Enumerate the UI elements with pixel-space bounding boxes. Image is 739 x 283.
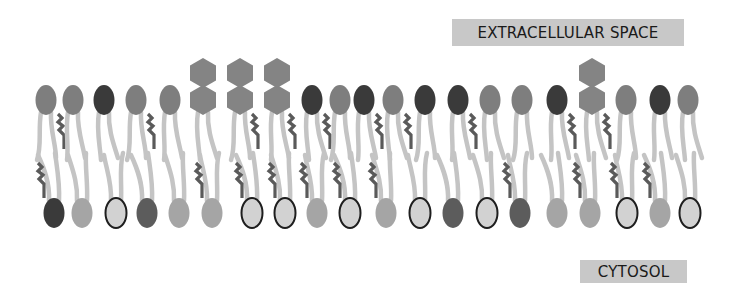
outer-leaflet xyxy=(36,58,703,160)
phospholipid-outer xyxy=(94,85,119,160)
lipid-head-icon xyxy=(477,198,498,228)
phospholipid-outer xyxy=(63,85,86,160)
sugar-hexagon-icon xyxy=(190,58,216,88)
sugar-hexagon-icon xyxy=(227,58,253,88)
phospholipid-outer xyxy=(330,85,351,160)
lipid-head-icon xyxy=(678,85,699,115)
lipid-head-icon xyxy=(512,85,533,115)
phospholipid-outer xyxy=(512,85,533,160)
lipid-head-icon xyxy=(650,198,671,228)
phospholipid-outer xyxy=(547,85,576,160)
phospholipid-inner xyxy=(334,153,361,228)
phospholipid-outer xyxy=(190,58,217,160)
lipid-head-icon xyxy=(480,85,501,115)
phospholipid-inner xyxy=(473,153,498,228)
inner-leaflet xyxy=(38,153,701,228)
phospholipid-outer xyxy=(383,85,412,160)
phospholipid-outer xyxy=(264,58,295,160)
phospholipid-outer xyxy=(579,58,610,160)
lipid-head-icon xyxy=(376,198,397,228)
phospholipid-inner xyxy=(38,153,65,228)
phospholipid-inner xyxy=(676,153,701,228)
lipid-bilayer-diagram xyxy=(0,0,739,283)
phospholipid-inner xyxy=(541,153,568,228)
lipid-head-icon xyxy=(340,198,361,228)
lipid-head-icon xyxy=(415,85,436,115)
phospholipid-outer xyxy=(354,85,383,160)
lipid-head-icon xyxy=(275,198,296,228)
lipid-head-icon xyxy=(617,198,638,228)
phospholipid-inner xyxy=(611,153,638,228)
phospholipid-inner xyxy=(574,153,601,228)
sugar-hexagon-icon xyxy=(579,85,605,115)
lipid-head-icon xyxy=(510,198,531,228)
phospholipid-inner xyxy=(301,153,328,228)
lipid-head-icon xyxy=(354,85,375,115)
phospholipid-inner xyxy=(68,153,93,228)
lipid-head-icon xyxy=(547,198,568,228)
sugar-hexagon-icon xyxy=(190,85,216,115)
lipid-head-icon xyxy=(680,198,701,228)
phospholipid-inner xyxy=(408,153,431,228)
lipid-head-icon xyxy=(106,198,127,228)
phospholipid-inner xyxy=(196,153,223,228)
phospholipid-outer xyxy=(160,85,183,160)
phospholipid-outer xyxy=(650,85,673,160)
lipid-head-icon xyxy=(36,85,57,115)
phospholipid-outer xyxy=(227,58,258,160)
lipid-head-icon xyxy=(160,85,181,115)
phospholipid-outer xyxy=(616,85,637,160)
lipid-head-icon xyxy=(302,85,323,115)
lipid-head-icon xyxy=(547,85,568,115)
phospholipid-inner xyxy=(104,153,127,228)
lipid-head-icon xyxy=(137,198,158,228)
phospholipid-outer xyxy=(126,85,155,160)
lipid-head-icon xyxy=(63,85,84,115)
phospholipid-outer xyxy=(480,85,505,160)
phospholipid-outer xyxy=(678,85,703,160)
lipid-head-icon xyxy=(410,198,431,228)
lipid-head-icon xyxy=(307,198,328,228)
lipid-head-icon xyxy=(443,198,464,228)
phospholipid-inner xyxy=(370,153,397,228)
phospholipid-inner xyxy=(165,153,190,228)
lipid-head-icon xyxy=(580,198,601,228)
lipid-head-icon xyxy=(44,198,65,228)
lipid-head-icon xyxy=(202,198,223,228)
phospholipid-inner xyxy=(131,153,158,228)
sugar-hexagon-icon xyxy=(264,85,290,115)
lipid-head-icon xyxy=(383,85,404,115)
lipid-head-icon xyxy=(448,85,469,115)
phospholipid-inner xyxy=(644,153,671,228)
phospholipid-inner xyxy=(437,153,464,228)
phospholipid-inner xyxy=(236,153,263,228)
lipid-head-icon xyxy=(330,85,351,115)
phospholipid-outer xyxy=(415,85,436,160)
lipid-head-icon xyxy=(242,198,263,228)
sugar-hexagon-icon xyxy=(264,58,290,88)
sugar-hexagon-icon xyxy=(227,85,253,115)
lipid-head-icon xyxy=(616,85,637,115)
sugar-hexagon-icon xyxy=(579,58,605,88)
phospholipid-outer xyxy=(36,85,65,160)
lipid-head-icon xyxy=(169,198,190,228)
phospholipid-outer xyxy=(302,85,331,160)
lipid-head-icon xyxy=(650,85,671,115)
lipid-head-icon xyxy=(94,85,115,115)
lipid-head-icon xyxy=(72,198,93,228)
phospholipid-inner xyxy=(504,153,531,228)
phospholipid-outer xyxy=(448,85,477,160)
phospholipid-inner xyxy=(269,153,296,228)
lipid-head-icon xyxy=(126,85,147,115)
cytosol-label: CYTOSOL xyxy=(580,260,687,283)
